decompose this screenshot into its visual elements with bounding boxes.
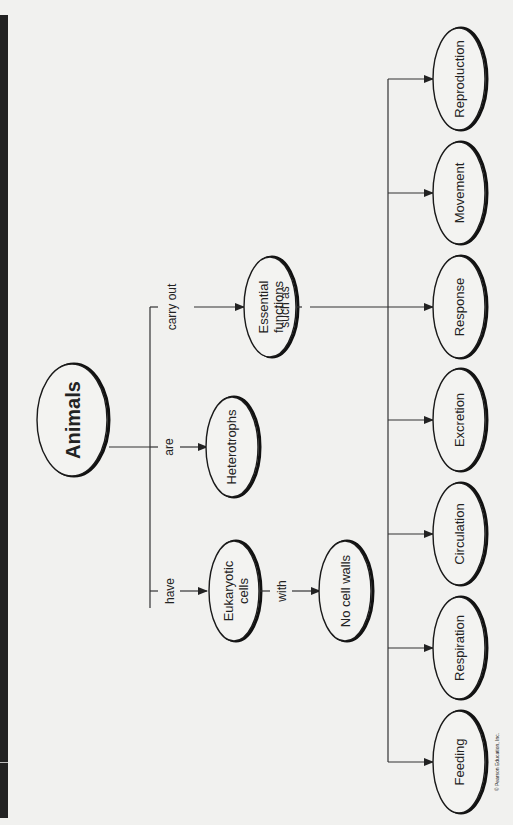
svg-text:have: have xyxy=(163,578,177,604)
node-animals: Animals xyxy=(37,364,109,476)
svg-text:are: are xyxy=(162,438,176,456)
function-branches xyxy=(388,79,433,762)
link-with: with xyxy=(259,580,320,602)
svg-text:Excretion: Excretion xyxy=(452,393,467,447)
svg-text:such as: such as xyxy=(278,286,292,327)
svg-text:Feeding: Feeding xyxy=(452,739,467,786)
svg-text:Respiration: Respiration xyxy=(452,615,467,681)
svg-text:with: with xyxy=(275,580,289,602)
svg-text:Eukaryotic: Eukaryotic xyxy=(221,560,236,621)
svg-text:Movement: Movement xyxy=(452,162,467,223)
node-eukaryotic-cells: Eukaryotic cells xyxy=(209,541,261,641)
svg-text:Heterotrophs: Heterotrophs xyxy=(224,409,239,485)
node-no-cell-walls: No cell walls xyxy=(319,541,373,641)
svg-text:No cell walls: No cell walls xyxy=(338,554,353,627)
concept-map-page: Animals carry out are have Essentia xyxy=(0,0,513,825)
svg-text:Response: Response xyxy=(452,278,467,337)
svg-text:Circulation: Circulation xyxy=(452,503,467,564)
node-heterotrophs: Heterotrophs xyxy=(206,397,260,497)
copyright-text: © Pearson Education, Inc. xyxy=(494,733,500,791)
node-excretion: Excretion xyxy=(433,369,487,471)
svg-text:Reproduction: Reproduction xyxy=(452,40,467,117)
link-are: are xyxy=(150,438,207,456)
node-response: Response xyxy=(433,256,487,358)
node-circulation: Circulation xyxy=(433,483,487,585)
svg-text:carry out: carry out xyxy=(165,283,179,330)
node-movement: Movement xyxy=(433,142,487,244)
link-have: have xyxy=(150,578,207,604)
node-animals-label: Animals xyxy=(62,381,84,459)
link-such-as: such as xyxy=(278,286,433,327)
node-reproduction: Reproduction xyxy=(433,28,487,130)
link-carry-out: carry out xyxy=(150,283,244,330)
svg-text:Essential: Essential xyxy=(256,281,271,334)
node-respiration: Respiration xyxy=(433,597,487,699)
svg-text:cells: cells xyxy=(236,578,251,605)
concept-map-diagram: Animals carry out are have Essentia xyxy=(0,0,513,825)
node-feeding: Feeding xyxy=(433,711,487,813)
